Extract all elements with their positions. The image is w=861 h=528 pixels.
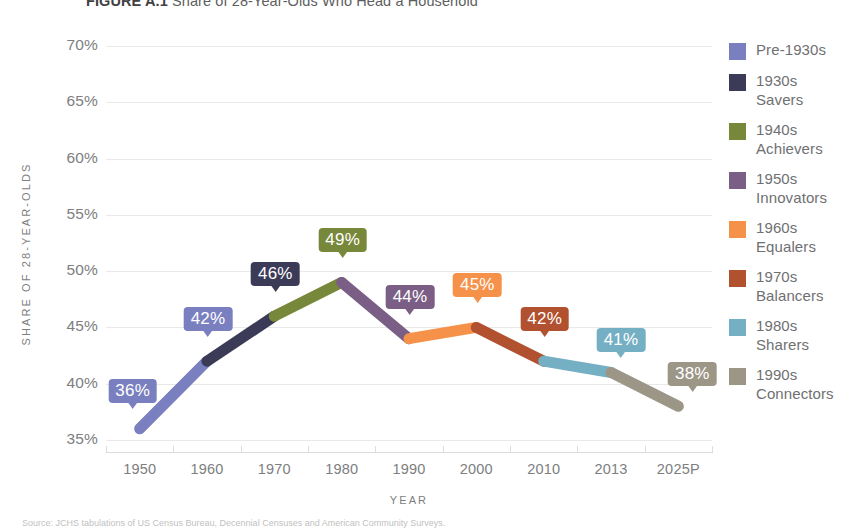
data-point-label: 41% bbox=[597, 328, 646, 352]
data-point-label: 45% bbox=[453, 273, 502, 297]
x-axis-tick-mark bbox=[241, 446, 242, 453]
y-axis-tick-label: 40% bbox=[46, 374, 98, 392]
x-axis-tick-mark bbox=[577, 446, 578, 453]
legend-item-label: 1930sSavers bbox=[756, 72, 803, 109]
legend-item[interactable]: 1980sSharers bbox=[729, 317, 861, 354]
data-point-value: 45% bbox=[460, 275, 495, 294]
legend-item[interactable]: 1990sConnectors bbox=[729, 366, 861, 403]
line-series bbox=[106, 46, 712, 440]
x-axis-tick-mark bbox=[106, 446, 107, 453]
legend-color-swatch bbox=[729, 221, 746, 238]
legend-item-label: Pre-1930s bbox=[756, 41, 826, 60]
data-point-value: 36% bbox=[115, 381, 150, 400]
callout-tail bbox=[203, 330, 213, 337]
data-point-label: 46% bbox=[251, 262, 300, 286]
line-segment bbox=[544, 361, 611, 372]
data-point-label: 49% bbox=[318, 228, 367, 252]
plot-region bbox=[106, 46, 712, 440]
data-point-value: 42% bbox=[191, 309, 226, 328]
callout-tail bbox=[616, 351, 626, 358]
legend-item[interactable]: 1940sAchievers bbox=[729, 121, 861, 158]
data-point-value: 46% bbox=[258, 264, 293, 283]
callout-tail bbox=[338, 251, 348, 258]
data-point-label: 44% bbox=[386, 285, 435, 309]
y-axis-tick-label: 55% bbox=[46, 205, 98, 223]
y-axis-title: SHARE OF 28-YEAR-OLDS bbox=[20, 124, 32, 384]
legend-color-swatch bbox=[729, 123, 746, 140]
x-axis-tick-mark bbox=[173, 446, 174, 453]
line-segment bbox=[274, 282, 341, 316]
callout-tail bbox=[540, 330, 550, 337]
data-point-value: 44% bbox=[393, 287, 428, 306]
legend-item-label: 1940sAchievers bbox=[756, 121, 823, 158]
gridline bbox=[106, 440, 712, 441]
y-axis-tick-label: 35% bbox=[46, 430, 98, 448]
x-axis-tick-mark bbox=[510, 446, 511, 453]
legend-item[interactable]: 1950sInnovators bbox=[729, 170, 861, 207]
line-segment bbox=[409, 327, 476, 338]
data-point-label: 38% bbox=[668, 362, 717, 386]
legend-item-label: 1960sEqualers bbox=[756, 219, 816, 256]
x-axis-tick-mark bbox=[645, 446, 646, 453]
data-point-label: 36% bbox=[108, 379, 157, 403]
y-axis-tick-label: 50% bbox=[46, 261, 98, 279]
legend-item[interactable]: Pre-1930s bbox=[729, 41, 861, 60]
x-axis-tick-label: 2025P bbox=[638, 461, 718, 477]
legend-color-swatch bbox=[729, 172, 746, 189]
legend-item-label: 1970sBalancers bbox=[756, 268, 824, 305]
callout-tail bbox=[270, 285, 280, 292]
x-axis-title: YEAR bbox=[106, 494, 712, 506]
line-segment bbox=[476, 327, 543, 361]
y-axis-tick-label: 70% bbox=[46, 36, 98, 54]
legend-item-label: 1990sConnectors bbox=[756, 366, 834, 403]
data-point-value: 49% bbox=[325, 230, 360, 249]
legend-item[interactable]: 1960sEqualers bbox=[729, 219, 861, 256]
legend-item-label: 1950sInnovators bbox=[756, 170, 827, 207]
x-axis-tick-mark bbox=[375, 446, 376, 453]
x-axis-tick-mark bbox=[308, 446, 309, 453]
x-axis-line bbox=[106, 452, 712, 453]
y-axis-tick-label: 60% bbox=[46, 149, 98, 167]
legend-color-swatch bbox=[729, 319, 746, 336]
data-point-label: 42% bbox=[184, 307, 233, 331]
x-axis-tick-mark bbox=[712, 446, 713, 453]
legend-item[interactable]: 1930sSavers bbox=[729, 72, 861, 109]
x-axis-tick-mark bbox=[443, 446, 444, 453]
legend-item-label: 1980sSharers bbox=[756, 317, 809, 354]
y-axis-tick-label: 65% bbox=[46, 92, 98, 110]
legend-color-swatch bbox=[729, 270, 746, 287]
legend-color-swatch bbox=[729, 74, 746, 91]
callout-tail bbox=[128, 402, 138, 409]
data-point-label: 42% bbox=[520, 307, 569, 331]
legend-color-swatch bbox=[729, 43, 746, 60]
source-note: Source: JCHS tabulations of US Census Bu… bbox=[22, 518, 445, 528]
callout-tail bbox=[687, 385, 697, 392]
callout-tail bbox=[472, 296, 482, 303]
y-axis-tick-labels: 70%65%60%55%50%45%40%35% bbox=[40, 46, 98, 440]
data-point-value: 42% bbox=[527, 309, 562, 328]
data-point-value: 41% bbox=[604, 330, 639, 349]
callout-tail bbox=[405, 308, 415, 315]
legend-item[interactable]: 1970sBalancers bbox=[729, 268, 861, 305]
legend-color-swatch bbox=[729, 368, 746, 385]
y-axis-tick-label: 45% bbox=[46, 317, 98, 335]
legend: Pre-1930s1930sSavers1940sAchievers1950sI… bbox=[729, 41, 861, 415]
data-point-value: 38% bbox=[675, 364, 710, 383]
